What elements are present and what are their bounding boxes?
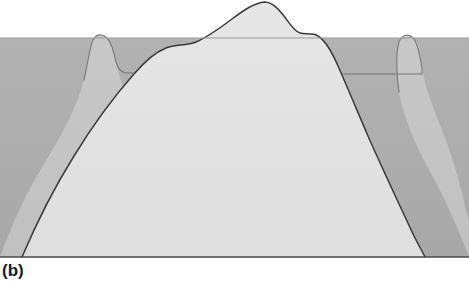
panel-label: (b) (2, 261, 24, 281)
figure-root: (b) (0, 0, 469, 283)
cross-section-diagram (0, 0, 469, 283)
